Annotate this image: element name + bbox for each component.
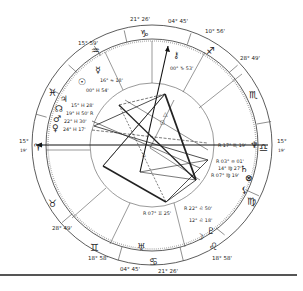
planet-neptune-icon: ♆ <box>250 140 258 150</box>
planet-venus-position: 24° H 17' <box>63 127 86 132</box>
planet-sun-position: 00° H 54' <box>86 88 109 93</box>
cusp-label: 19' <box>20 148 27 153</box>
cusp-label: 18° 58' <box>88 255 108 261</box>
aspect-lines <box>92 94 208 202</box>
planet-mars-position: 22° H 30' <box>64 119 87 124</box>
aspect-trine-icon: △ <box>142 151 146 157</box>
cusp-label: 28° 49' <box>240 55 260 61</box>
planet-uranus-icon: ♅ <box>137 242 145 252</box>
bottom-divider <box>0 274 297 276</box>
sign-capricorn-icon: ♑ <box>140 28 149 39</box>
sign-sagittarius-icon: ♐ <box>206 45 215 56</box>
planet-jupiter-position: 15° H 28' <box>71 103 94 108</box>
sign-scorpio-icon: ♏ <box>249 89 258 100</box>
part-of-fortune-position: 14° ♍ 27' <box>218 166 241 171</box>
planet-venus-icon: ♀ <box>52 123 59 133</box>
lilith-icon: ⚸ <box>241 185 248 195</box>
sign-virgo-icon: ♍ <box>247 196 256 207</box>
planet-saturn-position: R 03° ≏ 01' <box>216 159 244 164</box>
planet-uranus-position: R 07° ♊ 25' <box>143 211 171 216</box>
planet-mercury-position: 16° ≈ 18' <box>100 78 123 83</box>
cusp-label: 18° 58' <box>212 255 232 261</box>
planet-sun-icon: ☉ <box>78 77 86 87</box>
sign-aquarius-icon: ♒ <box>91 45 100 56</box>
planet-neptune-position: R 17° ♏ 19' <box>218 143 246 148</box>
sign-aries-icon: ♈ <box>34 142 43 153</box>
sign-gemini-icon: ♊ <box>90 242 99 253</box>
cusp-label: 21° 26' <box>130 16 150 22</box>
planet-pluto-icon: ♇ <box>207 226 215 236</box>
sign-taurus-icon: ♉ <box>48 198 57 209</box>
planet-moon-position: 12° ♌ 18' <box>189 218 212 223</box>
cusp-label: 04° 45' <box>120 266 140 272</box>
cusp-label: 10° 56' <box>205 28 225 34</box>
planet-pluto-position: R 22° ♌ 50' <box>184 206 212 211</box>
mc-arrow-icon <box>165 46 170 52</box>
planet-chiron-icon: ⚷ <box>173 50 180 60</box>
planet-node-icon: ☊ <box>55 104 63 114</box>
cusp-label: 15° <box>19 138 29 144</box>
planet-node-position: 19° H 50' R <box>66 111 94 116</box>
aspect-square-icon: □ <box>160 119 165 125</box>
sign-leo-icon: ♌ <box>209 241 218 252</box>
lilith-position: R 07° ♍ 19' <box>211 173 239 178</box>
sign-libra-icon: ♎ <box>259 142 268 153</box>
part-of-fortune-icon: ⊗ <box>245 173 253 183</box>
cusp-label: 28° 49' <box>52 225 72 231</box>
planet-mercury-icon: ☿ <box>95 65 101 75</box>
planet-chiron-position: 00° ♑ 53' <box>170 66 193 71</box>
sign-cancer-icon: ♋ <box>149 256 158 267</box>
cusp-label: 19' <box>278 148 285 153</box>
aspect-trine-icon: △ <box>163 110 168 117</box>
sign-pisces-icon: ♓ <box>48 87 57 98</box>
cusp-label: 04° 45' <box>168 18 188 24</box>
natal-chart-wheel: △ △ □ ♑ ♐ ♏ ♎ ♍ ♌ ♋ ♊ ♉ ♈ ♓ ♒ 21° 26' 04… <box>0 0 303 291</box>
planet-jupiter-icon: ♃ <box>60 94 68 104</box>
cusp-label: 15° <box>277 138 287 144</box>
cusp-label: 15° 59' <box>78 40 98 46</box>
planet-moon-icon: ☽ <box>196 232 204 242</box>
